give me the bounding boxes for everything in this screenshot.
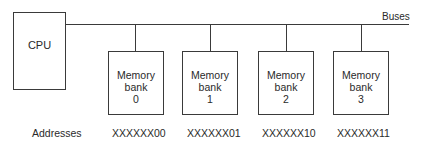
bank-1-address: XXXXXX01 [187,127,241,139]
bank-label-line2: bank [125,81,148,93]
bank-0-connector [135,24,136,51]
bank-label-line1: Memory [267,69,305,81]
bus-label: Buses [382,11,410,22]
bank-label-line1: Memory [191,69,229,81]
memory-bank-0: Memory bank 0 [108,51,164,115]
bank-label-line1: Memory [342,69,380,81]
bank-2-address: XXXXXX10 [262,127,316,139]
bank-index: 2 [283,93,289,105]
bus-line [66,24,409,25]
bank-index: 1 [207,93,213,105]
memory-bank-2: Memory bank 2 [258,51,314,115]
bank-0-address: XXXXXX00 [112,127,166,139]
memory-bank-3: Memory bank 3 [333,51,389,115]
bank-label-line2: bank [350,81,373,93]
cpu-label: CPU [28,39,51,51]
bank-1-connector [210,24,211,51]
bank-index: 0 [133,93,139,105]
addresses-label: Addresses [32,127,82,139]
memory-bank-1: Memory bank 1 [182,51,238,115]
bank-3-address: XXXXXX11 [337,127,390,139]
memory-interleaving-diagram: CPU Buses Memory bank 0 Memory bank 1 Me… [0,0,422,145]
cpu-box: CPU [13,12,66,90]
bank-label-line2: bank [275,81,298,93]
bank-label-line1: Memory [117,69,155,81]
bank-label-line2: bank [199,81,222,93]
bank-3-connector [361,24,362,51]
bank-index: 3 [358,93,364,105]
bank-2-connector [286,24,287,51]
